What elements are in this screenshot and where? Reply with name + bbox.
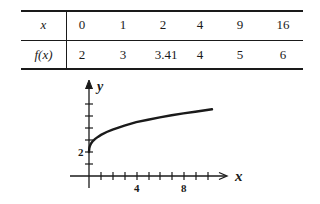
function-curve: [89, 109, 212, 152]
y-axis-arrow-icon: [86, 80, 93, 89]
function-graph: y x 2 4 8: [0, 0, 320, 204]
y-tick-label-2: 2: [78, 146, 84, 158]
x-axis-label: x: [234, 168, 243, 184]
y-axis-label: y: [95, 79, 104, 94]
x-tick-label-8: 8: [181, 182, 187, 194]
x-tick-label-4: 4: [134, 182, 140, 194]
